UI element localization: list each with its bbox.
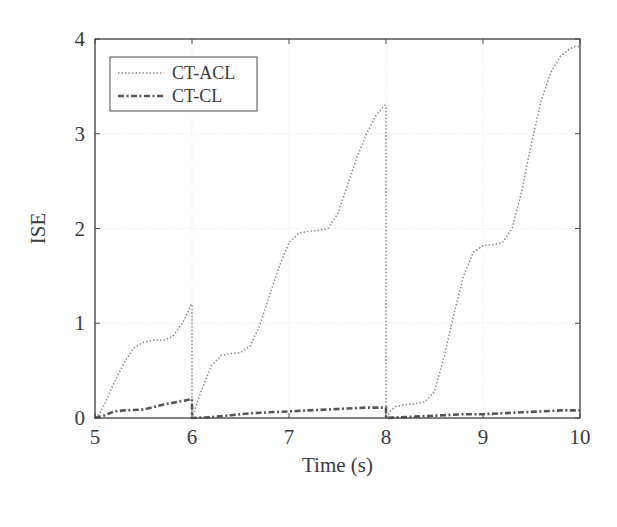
y-tick-label: 2	[75, 217, 86, 241]
x-axis-label: Time (s)	[302, 453, 373, 477]
x-axis-tick-labels: 5678910	[90, 425, 591, 449]
legend: CT-ACL CT-CL	[110, 57, 257, 111]
x-tick-label: 5	[90, 425, 101, 449]
x-tick-label: 10	[570, 425, 591, 449]
x-tick-label: 7	[284, 425, 295, 449]
y-tick-label: 0	[75, 406, 86, 430]
y-tick-label: 3	[75, 122, 86, 146]
x-tick-label: 9	[478, 425, 489, 449]
x-tick-label: 8	[381, 425, 392, 449]
y-tick-label: 1	[75, 311, 86, 335]
y-tick-label: 4	[75, 27, 86, 51]
legend-label-ct-cl: CT-CL	[172, 86, 222, 106]
x-tick-label: 6	[187, 425, 198, 449]
legend-label-ct-acl: CT-ACL	[172, 63, 235, 83]
ise-line-chart: 5678910 01234 Time (s) ISE CT-ACL CT-CL	[0, 0, 617, 527]
y-axis-tick-labels: 01234	[75, 27, 86, 430]
y-axis-label: ISE	[26, 213, 50, 245]
series-line-ct-cl	[95, 399, 580, 418]
